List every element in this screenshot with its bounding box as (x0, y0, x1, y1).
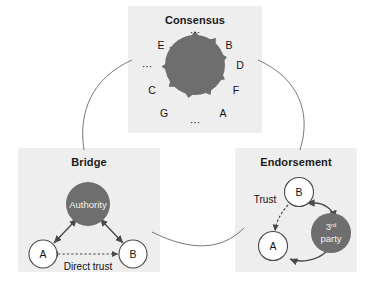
panel-endorsement-title: Endorsement (235, 156, 357, 168)
arc-consensus-to-endorsement (258, 60, 304, 150)
figure-canvas: Consensus Bridge Endorsement (0, 0, 375, 281)
panel-endorsement: Endorsement (235, 148, 357, 272)
arc-consensus-to-bridge (83, 60, 132, 150)
panel-bridge: Bridge (18, 148, 160, 272)
arc-bridge-to-endorsement (152, 228, 244, 246)
panel-consensus-title: Consensus (128, 14, 262, 26)
panel-consensus: Consensus (128, 6, 262, 133)
panel-bridge-title: Bridge (18, 156, 160, 168)
